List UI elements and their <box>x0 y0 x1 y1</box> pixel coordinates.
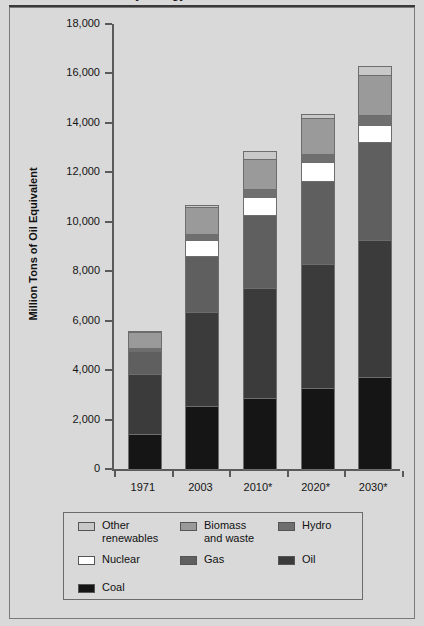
bar-2003[interactable] <box>185 205 219 470</box>
bar-segment-other-renewables <box>358 66 392 75</box>
x-axis-tick-mark <box>172 471 174 477</box>
legend-swatch-icon <box>278 522 295 531</box>
chart-page: World Primary Energy Demand, 1971-2030 1… <box>0 0 424 626</box>
y-axis-tick-label: 0 <box>40 462 100 474</box>
bar-1971[interactable] <box>128 331 162 470</box>
plot-area <box>112 24 400 470</box>
y-axis-tick-mark <box>105 270 112 272</box>
bar-segment-nuclear <box>243 197 277 216</box>
x-axis-tick-label-2010: 2010* <box>228 481 288 493</box>
legend-swatch-icon <box>180 522 197 531</box>
x-axis-tick-label-2020: 2020* <box>286 481 346 493</box>
y-axis-tick-label: 16,000 <box>40 66 100 78</box>
bar-segment-gas <box>128 351 162 373</box>
y-axis-tick-mark <box>105 221 112 223</box>
chart-legend: Other renewablesBiomass and wasteHydroNu… <box>63 512 363 600</box>
bar-segment-oil <box>243 288 277 398</box>
y-axis-title: Million Tons of Oil Equivalent <box>27 139 39 349</box>
bar-segment-gas <box>185 256 219 312</box>
y-axis-tick-mark <box>105 369 112 371</box>
y-axis-tick-label: 12,000 <box>40 165 100 177</box>
y-axis-tick-mark <box>105 122 112 124</box>
y-axis-tick-label: 4,000 <box>40 363 100 375</box>
x-axis-tick-label-2003: 2003 <box>170 481 230 493</box>
y-axis-tick-label: 6,000 <box>40 314 100 326</box>
y-axis-tick-mark <box>105 171 112 173</box>
bar-segment-gas <box>243 215 277 288</box>
bar-segment-nuclear <box>358 125 392 142</box>
bar-segment-hydro <box>358 115 392 125</box>
y-axis-tick-label: 18,000 <box>40 17 100 29</box>
y-axis-tick-label: 2,000 <box>40 413 100 425</box>
bar-segment-coal <box>185 406 219 470</box>
x-axis-tick-label-1971: 1971 <box>113 481 173 493</box>
legend-swatch-icon <box>78 584 95 593</box>
bar-segment-oil <box>128 374 162 435</box>
bar-segment-coal <box>301 388 335 470</box>
legend-label: Nuclear <box>102 553 140 566</box>
legend-label: Coal <box>102 581 125 594</box>
legend-label: Biomass and waste <box>204 519 254 544</box>
y-axis-tick-label: 10,000 <box>40 215 100 227</box>
bar-segment-other-renewables <box>243 151 277 158</box>
legend-swatch-icon <box>180 556 197 565</box>
bar-2020[interactable] <box>301 114 335 470</box>
bar-segment-biomass-and-waste <box>301 118 335 154</box>
bar-segment-biomass-and-waste <box>358 75 392 116</box>
y-axis-tick-label: 14,000 <box>40 116 100 128</box>
legend-item-gas[interactable]: Gas <box>180 553 224 566</box>
legend-item-oil[interactable]: Oil <box>278 553 315 566</box>
bar-segment-oil <box>358 240 392 377</box>
bar-segment-oil <box>301 264 335 389</box>
bar-segment-nuclear <box>185 240 219 256</box>
legend-item-coal[interactable]: Coal <box>78 581 125 594</box>
y-axis-tick-mark <box>105 419 112 421</box>
y-axis-tick-label: 8,000 <box>40 264 100 276</box>
legend-label: Gas <box>204 553 224 566</box>
bar-segment-coal <box>358 377 392 470</box>
bar-segment-oil <box>185 312 219 406</box>
x-axis-tick-mark <box>229 471 231 477</box>
x-axis-tick-mark <box>344 471 346 477</box>
bar-segment-gas <box>301 181 335 264</box>
x-axis-tick-label-2030: 2030* <box>343 481 403 493</box>
bar-segment-hydro <box>301 154 335 163</box>
legend-swatch-icon <box>278 556 295 565</box>
x-axis-tick-mark <box>287 471 289 477</box>
bar-segment-biomass-and-waste <box>243 159 277 190</box>
bar-segment-biomass-and-waste <box>185 207 219 234</box>
bar-segment-hydro <box>243 189 277 196</box>
bar-segment-nuclear <box>301 162 335 181</box>
y-axis-tick-mark <box>105 23 112 25</box>
x-axis-tick-mark <box>114 471 116 477</box>
legend-label: Hydro <box>302 519 331 532</box>
bar-segment-gas <box>358 142 392 240</box>
y-axis-tick-mark <box>105 72 112 74</box>
y-axis-tick-mark <box>105 468 112 470</box>
legend-item-other-renewables[interactable]: Other renewables <box>78 519 158 544</box>
legend-item-biomass-and-waste[interactable]: Biomass and waste <box>180 519 254 544</box>
legend-item-hydro[interactable]: Hydro <box>278 519 331 532</box>
y-axis-tick-mark <box>105 320 112 322</box>
legend-swatch-icon <box>78 556 95 565</box>
bar-2010[interactable] <box>243 151 277 470</box>
bar-segment-coal <box>243 398 277 470</box>
legend-item-nuclear[interactable]: Nuclear <box>78 553 140 566</box>
legend-label: Oil <box>302 553 315 566</box>
bar-segment-coal <box>128 434 162 470</box>
legend-label: Other renewables <box>102 519 158 544</box>
bar-2030[interactable] <box>358 66 392 470</box>
legend-swatch-icon <box>78 522 95 531</box>
x-axis-tick-mark <box>402 471 404 477</box>
bar-segment-biomass-and-waste <box>128 332 162 348</box>
